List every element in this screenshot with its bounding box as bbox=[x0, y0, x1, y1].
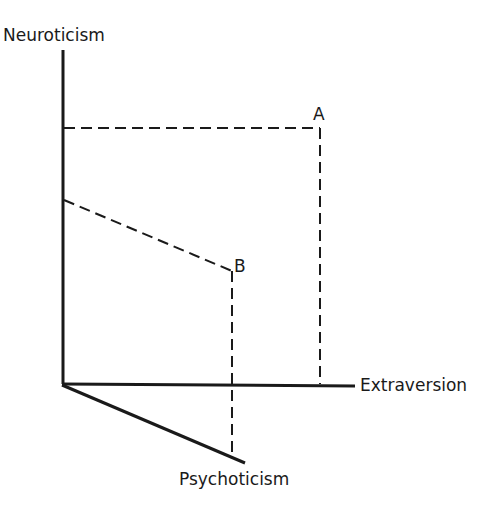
point-b-label: B bbox=[234, 256, 246, 276]
eysenck-diagram: Neuroticism Extraversion Psychoticism A … bbox=[0, 0, 493, 513]
psychoticism-label: Psychoticism bbox=[179, 469, 289, 489]
psychoticism-axis bbox=[62, 385, 245, 463]
neuroticism-label: Neuroticism bbox=[3, 25, 105, 45]
point-b-neuroticism-projection bbox=[64, 200, 232, 271]
extraversion-label: Extraversion bbox=[360, 375, 467, 395]
extraversion-axis bbox=[62, 384, 355, 386]
diagram-lines bbox=[0, 0, 493, 513]
point-a-label: A bbox=[313, 104, 325, 124]
